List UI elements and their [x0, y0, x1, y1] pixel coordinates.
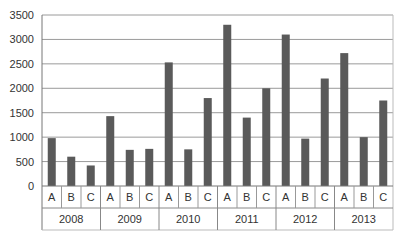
bar-2011-B [243, 118, 251, 186]
group-label: 2013 [352, 213, 376, 225]
y-tick-label: 1000 [10, 131, 34, 143]
y-tick-label: 3500 [10, 9, 34, 21]
bar-2012-C [321, 79, 329, 186]
subcategory-label: C [262, 191, 270, 203]
y-tick-label: 1500 [10, 107, 34, 119]
bar-2008-A [48, 138, 56, 186]
subcategory-label: A [224, 191, 232, 203]
bar-2008-B [67, 157, 75, 186]
y-tick-label: 2000 [10, 82, 34, 94]
subcategory-label: B [185, 191, 192, 203]
subcategory-label: C [87, 191, 95, 203]
bar-2013-B [360, 137, 368, 186]
y-tick-label: 3000 [10, 33, 34, 45]
bar-2010-C [204, 98, 212, 186]
subcategory-label: B [360, 191, 367, 203]
subcategory-label: B [68, 191, 75, 203]
bar-2010-B [184, 149, 192, 186]
subcategory-label: A [48, 191, 56, 203]
subcategory-label: C [321, 191, 329, 203]
y-tick-label: 500 [16, 156, 34, 168]
subcategory-label: B [126, 191, 133, 203]
x-axis-table: ABC2008ABC2009ABC2010ABC2011ABC2012ABC20… [42, 186, 393, 230]
bar-2011-A [223, 25, 231, 186]
y-tick-label: 0 [28, 180, 34, 192]
subcategory-label: C [204, 191, 212, 203]
bar-2009-C [145, 149, 153, 186]
subcategory-label: A [282, 191, 290, 203]
bar-2013-A [340, 53, 348, 186]
bar-2010-A [165, 62, 173, 186]
bar-2008-C [87, 165, 95, 186]
group-label: 2011 [235, 213, 259, 225]
group-label: 2008 [59, 213, 83, 225]
bar-2011-C [262, 88, 270, 186]
subcategory-label: C [145, 191, 153, 203]
subcategory-label: B [243, 191, 250, 203]
bar-2012-A [282, 35, 290, 186]
subcategory-label: A [107, 191, 115, 203]
bar-chart: 0500100015002000250030003500 ABC2008ABC2… [0, 0, 397, 240]
y-tick-label: 2500 [10, 58, 34, 70]
subcategory-label: A [341, 191, 349, 203]
subcategory-label: C [379, 191, 387, 203]
group-label: 2009 [118, 213, 142, 225]
bar-2009-B [126, 150, 134, 186]
group-label: 2012 [293, 213, 317, 225]
bar-2013-C [379, 101, 387, 187]
group-label: 2010 [176, 213, 200, 225]
subcategory-label: A [165, 191, 173, 203]
bar-2012-B [301, 139, 309, 186]
bar-2009-A [106, 116, 114, 186]
subcategory-label: B [302, 191, 309, 203]
